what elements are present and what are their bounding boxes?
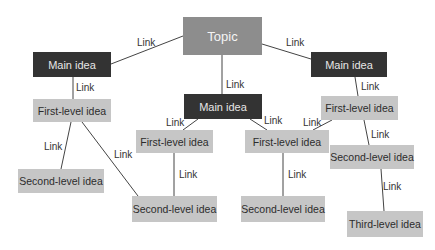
link-line-main-center-to-first-center-left xyxy=(183,119,198,130)
link-line-first-right-to-second-right xyxy=(364,120,369,145)
node-first-center-right: First-level idea xyxy=(245,130,329,153)
link-label: Link xyxy=(371,130,389,140)
node-label: Main idea xyxy=(325,59,373,71)
node-first-center-left: First-level idea xyxy=(136,130,213,153)
link-label: Link xyxy=(226,80,244,90)
node-label: Second-level idea xyxy=(330,151,413,163)
link-label: Link xyxy=(114,150,132,160)
node-topic: Topic xyxy=(183,17,262,55)
node-main-center: Main idea xyxy=(184,94,262,119)
link-label: Link xyxy=(166,118,184,128)
link-label: Link xyxy=(179,170,197,180)
node-label: Third-level idea xyxy=(349,218,421,230)
link-label: Link xyxy=(286,38,304,48)
node-label: Main idea xyxy=(48,59,96,71)
node-label: Second-level idea xyxy=(19,175,102,187)
link-label: Link xyxy=(361,82,379,92)
node-second-center-right: Second-level idea xyxy=(241,196,325,222)
link-label: Link xyxy=(76,83,94,93)
node-second-left: Second-level idea xyxy=(18,169,104,193)
node-label: First-level idea xyxy=(38,105,106,117)
node-main-right: Main idea xyxy=(311,52,387,77)
node-main-left: Main idea xyxy=(33,52,111,77)
node-label: First-level idea xyxy=(253,136,321,148)
concept-map: LinkLinkLinkLinkLinkLinkLinkLinkLinkLink… xyxy=(0,0,435,250)
link-label: Link xyxy=(137,38,155,48)
node-label: Main idea xyxy=(199,101,247,113)
node-second-right: Second-level idea xyxy=(330,145,414,169)
node-label: Second-level idea xyxy=(133,203,216,215)
node-label: First-level idea xyxy=(140,136,208,148)
node-label: Second-level idea xyxy=(241,203,324,215)
node-label: Topic xyxy=(207,29,237,44)
node-third-right: Third-level idea xyxy=(347,211,423,237)
node-second-center-left: Second-level idea xyxy=(132,196,217,222)
link-label: Link xyxy=(264,116,282,126)
link-line-main-right-to-first-right xyxy=(355,77,358,96)
link-line-first-left-to-second-left xyxy=(61,122,71,169)
link-label: Link xyxy=(288,170,306,180)
link-label: Link xyxy=(303,118,321,128)
link-label: Link xyxy=(44,142,62,152)
node-first-right: First-level idea xyxy=(321,96,398,120)
node-first-left: First-level idea xyxy=(33,99,111,122)
link-label: Link xyxy=(383,182,401,192)
node-label: First-level idea xyxy=(325,102,393,114)
